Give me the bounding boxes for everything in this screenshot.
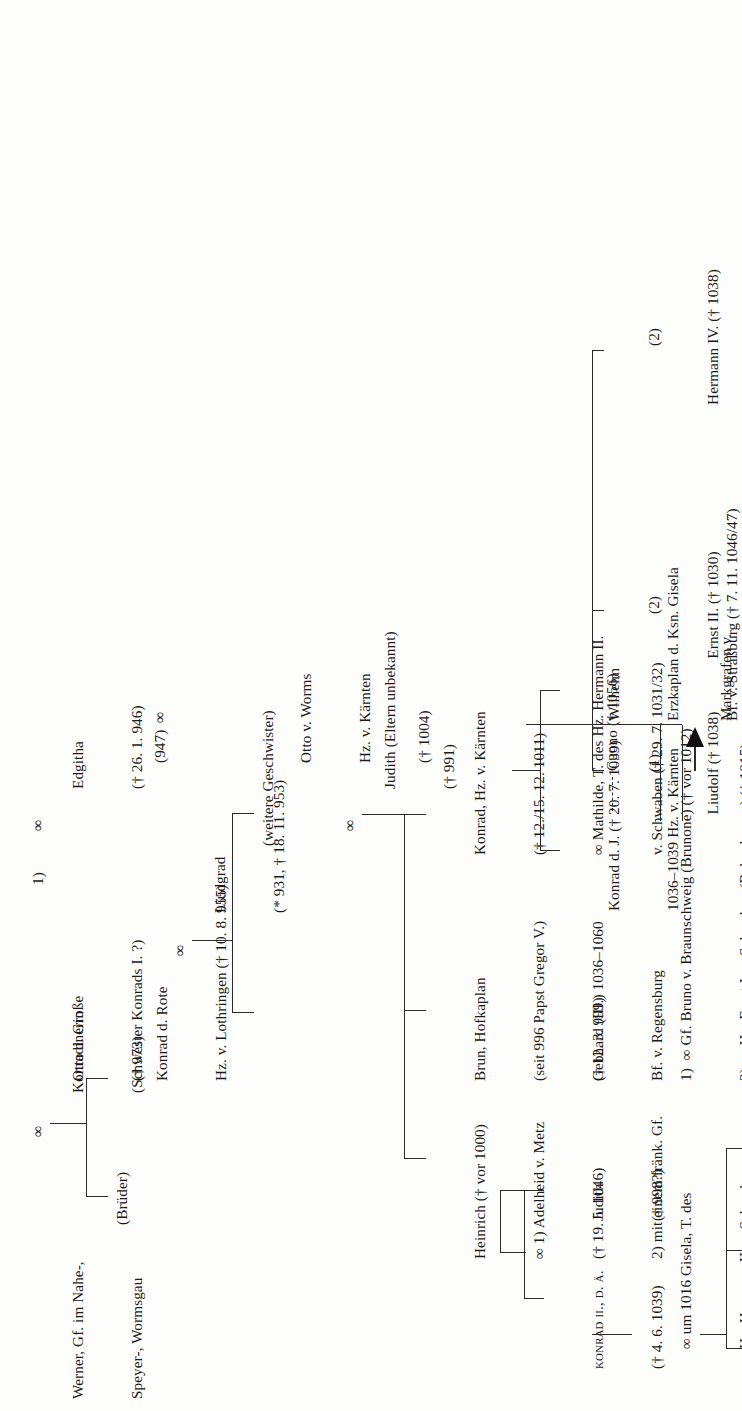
connector-to-brun xyxy=(404,1010,426,1011)
liudolf-num: (1) xyxy=(644,703,664,823)
node-liudgrad: Liudgrad (* 931, † 18. 11. 953) xyxy=(170,780,328,913)
hermannIV-line1: Hermann IV. († 1038) xyxy=(703,267,723,407)
node-liudolf: (1) Liudolf († 1038) Gf. v. Braunschweig xyxy=(604,703,742,823)
node-markgrafen: Markgrafen v. Meißen xyxy=(676,634,742,721)
connector-to-mathilde xyxy=(726,1148,742,1149)
arrow-to-markgrafen-icon xyxy=(686,727,704,747)
connector-prev-children-hermannIV xyxy=(592,350,604,351)
connector-gen5-bus-heinrich xyxy=(524,1191,525,1299)
edgitha-line2: († 26. 1. 946) xyxy=(127,705,147,789)
gebhard-line1: Gebhard (III.) 1036–1060 xyxy=(588,921,608,1081)
connector-konrad-rote-down xyxy=(192,940,232,941)
connector-to-heinrichIII xyxy=(726,1348,742,1349)
heinrich-line1: Heinrich († vor 1000) xyxy=(470,1116,490,1259)
hermannIV-num: (2) xyxy=(644,267,664,407)
werner-line2: Speyer-, Wormsgau xyxy=(127,1261,147,1399)
arrow-stem xyxy=(694,745,696,771)
connector-gen5-bus-kaernten xyxy=(540,691,541,851)
connector-gen2-bus-left xyxy=(86,1123,87,1197)
label-otto-worms-year: (947) xyxy=(150,730,170,763)
markgrafen-line1: Markgrafen v. xyxy=(716,634,736,721)
connector-heinrich-down-b xyxy=(500,1190,524,1191)
connector-konrad-kaernten-down xyxy=(512,770,540,771)
konrad-kaernten-line1: Konrad, Hz. v. Kärnten xyxy=(470,636,490,855)
connector-otto-worms-down xyxy=(362,814,404,815)
otto-grosse-line1: Otto d. Große xyxy=(68,996,88,1081)
node-hermann-IV: (2) Hermann IV. († 1038) Hz. v. Schwaben xyxy=(604,267,742,407)
connector-prev-children-liudolf xyxy=(592,770,604,771)
node-werner: Werner, Gf. im Nahe-, Speyer-, Wormsgau xyxy=(28,1261,186,1399)
marriage-symbol-konrad-rote: ∞ xyxy=(170,944,191,956)
connector-to-beatrix xyxy=(726,1250,742,1251)
marriage-symbol-otto: ∞ xyxy=(28,819,49,831)
connector-to-otto-worms xyxy=(232,1012,254,1013)
liudolf-line1: Liudolf († 1038) xyxy=(703,703,723,823)
konrad-rote-line1: Konrad d. Rote xyxy=(152,885,172,1081)
connector-to-brueder xyxy=(86,1196,108,1197)
connector-gen3-bus xyxy=(232,813,233,1013)
label-brueder: (Brüder) xyxy=(112,1172,132,1225)
connector-to-konrad-kaernten xyxy=(404,814,426,815)
connector-gen4-bus xyxy=(404,814,405,1159)
konrad-II-line1: KONRAD II., D. Ä. xyxy=(588,1270,608,1369)
judith998-line1: Judith xyxy=(588,1169,608,1221)
connector-heinrich-down-a xyxy=(500,1252,526,1253)
otto-worms-line1: Otto v. Worms xyxy=(296,673,316,763)
connector-gisela-children-down xyxy=(700,1334,726,1335)
gisela-line1: ∞ um 1016 Gisela, T. des xyxy=(676,1166,696,1349)
connector-to-wilhelm xyxy=(540,690,560,691)
brun-line1: Brun, Hofkaplan xyxy=(470,921,490,1081)
marriage-symbol-otto-worms: ∞ xyxy=(340,819,361,831)
werner-line1: Werner, Gf. im Nahe-, xyxy=(68,1261,88,1399)
connector-werner-down xyxy=(50,1123,86,1124)
connector-to-judith998 xyxy=(524,1190,544,1191)
gisela-line2: Hz. Hermann II. v. Schwaben xyxy=(735,1166,742,1349)
connector-to-konrad-II xyxy=(524,1298,544,1299)
konrad-rote-line2: Hz. v. Lothringen († 10. 8. 955) xyxy=(211,885,231,1081)
connector-gen2-bus-right xyxy=(86,1078,87,1124)
konrad-kaernten-line2: († 12./15. 12. 1011) xyxy=(529,636,549,855)
connector-prev-children-bus xyxy=(592,351,593,771)
connector-to-konrad-dJ xyxy=(540,850,560,851)
connector-heinrich-marriage-bar xyxy=(500,1191,501,1253)
brun-line2: (seit 996 Papst Gregor V.) xyxy=(529,921,549,1081)
connector-konradII-down xyxy=(592,1334,632,1335)
liudgrad-line1: Liudgrad xyxy=(210,780,230,913)
marriage-symbol-otto-worms-year: ∞ xyxy=(150,711,171,723)
node-konrad-rote: Konrad d. Rote Hz. v. Lothringen († 10. … xyxy=(112,885,270,1081)
edgitha-line1: Edgitha xyxy=(68,705,88,789)
marriage-symbol-werner: ∞ xyxy=(28,1125,49,1137)
genealogy-chart: Werner, Gf. im Nahe-, Speyer-, Wormsgau … xyxy=(0,0,742,1411)
label-marriage-1: 1) xyxy=(28,872,48,885)
heinrich-line2: ∞ 1) Adelheid v. Metz xyxy=(529,1116,549,1259)
connector-to-heinrich xyxy=(404,1158,426,1159)
connector-prev-children-ernstII xyxy=(592,610,604,611)
ernstII-num: (2) xyxy=(644,545,664,665)
connector-to-weitere-geschwister xyxy=(232,813,254,814)
judith-eltern-line1: Judith (Eltern unbekannt) xyxy=(380,631,400,789)
